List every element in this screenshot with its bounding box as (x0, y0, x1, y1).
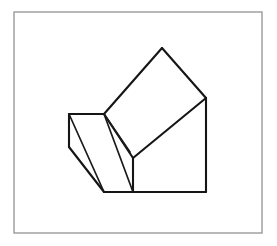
drawing-canvas (0, 0, 277, 246)
figure-svg (0, 0, 277, 246)
